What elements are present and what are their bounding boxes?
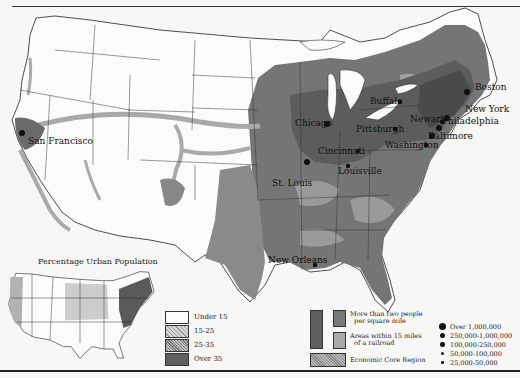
city-label: Washington [385, 140, 439, 150]
city-size-legend: Over 1,000,000 250,000-1,000,000 100,000… [438, 322, 512, 367]
city-label: Louisville [338, 166, 382, 176]
legend-item-15-25: 15-25 [165, 324, 228, 338]
legend-label: Over 35 [194, 355, 222, 363]
city-dot [464, 89, 470, 95]
city-label: Buffalo [370, 96, 402, 106]
swatch-dense [333, 310, 346, 327]
inset-map [9, 272, 155, 359]
dot-icon [440, 342, 445, 347]
legend-density-label-1: More than two people per square mile [350, 311, 423, 325]
city-dot [19, 130, 25, 136]
urban-percentage-legend: Under 15 15-25 25-35 Over 35 [165, 310, 228, 366]
dot-icon [440, 333, 446, 339]
legend-city-row: Over 1,000,000 [438, 322, 512, 331]
swatch-white [165, 311, 189, 324]
dot-icon [439, 323, 446, 330]
swatch-core [310, 353, 346, 367]
legend-item-over-35: Over 35 [165, 352, 228, 366]
legend-item-25-35: 25-35 [165, 338, 228, 352]
swatch-dense-tall [310, 310, 323, 349]
inset-map-title: Percentage Urban Population [38, 257, 158, 266]
city-label: Philadelphia [442, 116, 499, 126]
swatch-railroad [333, 332, 346, 349]
density-legend: More than two people per square mile Are… [305, 305, 440, 367]
legend-city-row: 250,000-1,000,000 [438, 331, 512, 340]
legend-label: 15-25 [194, 327, 214, 335]
legend-label: Under 15 [194, 313, 228, 321]
city-label: New Orleans [268, 255, 328, 265]
city-label: Pittsburgh [356, 124, 404, 134]
city-label: Boston [475, 82, 507, 92]
legend-density-label-3: Economic Core Region [350, 357, 425, 364]
legend-item-under-15: Under 15 [165, 310, 228, 324]
legend-city-row: 50,000-100,000 [438, 349, 512, 358]
bottom-rule [0, 370, 520, 372]
swatch-light-hatch [165, 325, 189, 338]
city-label: Newark [410, 114, 447, 124]
city-label: San Francisco [28, 136, 93, 146]
city-label: Cincinnati [318, 146, 365, 156]
city-dot [304, 159, 310, 165]
legend-label: 25-35 [194, 341, 214, 349]
city-label: New York [465, 104, 510, 114]
city-label: St. Louis [272, 178, 313, 188]
dot-icon [441, 361, 444, 364]
city-label: Chicago [295, 118, 332, 128]
legend-city-row: 100,000-250,000 [438, 340, 512, 349]
swatch-dark [165, 353, 189, 366]
legend-density-label-2: Areas within 15 miles of a railroad [350, 333, 422, 347]
swatch-dense-hatch [165, 339, 189, 352]
dot-icon [441, 352, 445, 356]
legend-city-row: 25,000-50,000 [438, 358, 512, 367]
